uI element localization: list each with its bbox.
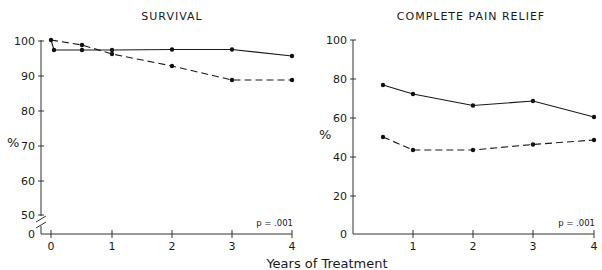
- pain-relief-x-ticks: 1 2 3 4: [410, 230, 598, 253]
- pain-relief-p-value: p = .001: [558, 218, 595, 228]
- survival-dashed-series: [51, 40, 292, 80]
- survival-p-value: p = .001: [256, 218, 293, 228]
- survival-title: SURVIVAL: [141, 10, 202, 23]
- svg-text:2: 2: [169, 240, 176, 253]
- svg-text:80: 80: [21, 105, 35, 118]
- survival-y-label: %: [7, 135, 19, 150]
- shared-x-axis-label: Years of Treatment: [265, 256, 387, 270]
- svg-text:0: 0: [48, 240, 55, 253]
- svg-text:4: 4: [289, 240, 296, 253]
- svg-text:100: 100: [14, 35, 35, 48]
- svg-text:0: 0: [340, 228, 347, 241]
- svg-text:90: 90: [21, 70, 35, 83]
- svg-text:80: 80: [333, 73, 347, 86]
- svg-text:100: 100: [326, 34, 347, 47]
- pain-relief-points: [381, 83, 596, 152]
- figure: SURVIVAL 100 90 80 70 60 50 0 % 0: [0, 0, 602, 270]
- svg-text:3: 3: [229, 240, 236, 253]
- svg-text:60: 60: [333, 112, 347, 125]
- svg-text:1: 1: [109, 240, 116, 253]
- survival-points: [49, 38, 294, 82]
- survival-chart: SURVIVAL 100 90 80 70 60 50 0 % 0: [7, 10, 296, 253]
- survival-x-ticks: 0 1 2 3 4: [48, 230, 296, 253]
- svg-text:3: 3: [530, 240, 537, 253]
- svg-text:0: 0: [28, 228, 35, 241]
- axis-break-mark: [36, 216, 46, 222]
- svg-text:20: 20: [333, 190, 347, 203]
- pain-relief-title: COMPLETE PAIN RELIEF: [397, 10, 545, 23]
- svg-text:4: 4: [591, 240, 598, 253]
- svg-text:2: 2: [470, 240, 477, 253]
- svg-text:40: 40: [333, 151, 347, 164]
- svg-text:60: 60: [21, 175, 35, 188]
- svg-text:50: 50: [21, 209, 35, 222]
- svg-text:1: 1: [410, 240, 417, 253]
- pain-relief-dashed-series: [383, 137, 594, 150]
- pain-relief-solid-series: [383, 85, 594, 117]
- svg-text:70: 70: [21, 140, 35, 153]
- pain-relief-chart: COMPLETE PAIN RELIEF 100 80 60 40 20 0 %…: [319, 10, 598, 253]
- pain-relief-y-label: %: [319, 127, 331, 142]
